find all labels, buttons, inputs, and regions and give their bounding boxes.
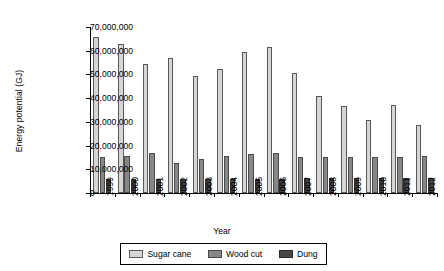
x-axis-tick-mark — [338, 193, 339, 197]
bar-sugar-cane-2011 — [391, 105, 396, 193]
bar-group — [412, 27, 437, 193]
y-axis-tick-label: 30,000,000 — [90, 118, 95, 127]
x-axis-tick-mark — [189, 193, 190, 197]
x-axis-tick-mark — [412, 193, 413, 197]
x-axis-tick-mark — [214, 193, 215, 197]
x-axis-title: Year — [0, 226, 444, 236]
x-axis-tick-label-1999: 1999 — [106, 177, 115, 196]
chart-figure: Energy potential (GJ) Year Sugar cane Wo… — [0, 0, 444, 271]
legend-label-dung: Dung — [297, 249, 318, 259]
bar-sugar-cane-2006 — [267, 47, 272, 193]
legend-label-sugar-cane: Sugar cane — [147, 249, 191, 259]
y-axis-tick-label: 70,000,000 — [90, 23, 95, 32]
bar-group — [140, 27, 165, 193]
x-axis-tick-mark — [363, 193, 364, 197]
x-axis-tick-mark — [264, 193, 265, 197]
x-axis-tick-label-2009: 2009 — [354, 177, 363, 196]
bar-group — [338, 27, 363, 193]
bar-group — [387, 27, 412, 193]
bar-sugar-cane-2003 — [193, 76, 198, 193]
bar-sugar-cane-2009 — [341, 106, 346, 193]
legend-label-wood-cut: Wood cut — [226, 249, 262, 259]
x-axis-tick-label-2010: 2010 — [379, 177, 388, 196]
bar-wood-cut-2005 — [248, 154, 253, 193]
x-axis-tick-label-2004: 2004 — [230, 177, 239, 196]
y-axis-tick-label: 40,000,000 — [90, 94, 95, 103]
x-axis-tick-mark — [164, 193, 165, 197]
legend-item-wood-cut: Wood cut — [208, 249, 262, 259]
y-axis-title: Energy potential (GJ) — [14, 36, 24, 186]
bar-sugar-cane-2002 — [168, 58, 173, 193]
legend-swatch-dung — [279, 250, 293, 258]
bar-sugar-cane-2004 — [217, 69, 222, 194]
bar-sugar-cane-2008 — [316, 96, 321, 193]
bar-sugar-cane-2012 — [416, 125, 421, 193]
x-axis-tick-mark — [288, 193, 289, 197]
y-axis-tick-mark — [86, 122, 90, 123]
x-axis-tick-mark — [437, 193, 438, 197]
bar-group — [288, 27, 313, 193]
x-axis-tick-label-2002: 2002 — [180, 177, 189, 196]
x-axis-tick-mark — [115, 193, 116, 197]
y-axis-tick-mark — [86, 51, 90, 52]
legend-swatch-sugar-cane — [129, 250, 143, 258]
y-axis-tick-label: 60,000,000 — [90, 46, 95, 55]
y-axis-tick-mark — [86, 146, 90, 147]
y-axis-tick-label: 10,000,000 — [90, 165, 95, 174]
y-axis-tick-mark — [86, 74, 90, 75]
x-axis-tick-label-2012: 2012 — [428, 177, 437, 196]
x-axis-tick-label-2000: 2000 — [131, 177, 140, 196]
legend-item-sugar-cane: Sugar cane — [129, 249, 191, 259]
legend-swatch-wood-cut — [208, 250, 222, 258]
plot-area — [90, 27, 437, 193]
bar-group — [363, 27, 388, 193]
bar-sugar-cane-2005 — [242, 52, 247, 193]
bar-group — [214, 27, 239, 193]
y-axis-tick-mark — [86, 98, 90, 99]
x-axis-tick-label-2008: 2008 — [329, 177, 338, 196]
y-axis-tick-mark — [86, 27, 90, 28]
x-axis-tick-mark — [239, 193, 240, 197]
bar-group — [313, 27, 338, 193]
x-axis-tick-label-2001: 2001 — [156, 177, 165, 196]
bar-group — [164, 27, 189, 193]
x-axis-tick-mark — [387, 193, 388, 197]
bar-sugar-cane-2007 — [292, 73, 297, 193]
bar-group — [239, 27, 264, 193]
y-axis-tick-label: 20,000,000 — [90, 141, 95, 150]
bar-group — [264, 27, 289, 193]
x-axis-tick-mark — [140, 193, 141, 197]
x-axis-tick-label-2006: 2006 — [279, 177, 288, 196]
x-axis-tick-label-2005: 2005 — [255, 177, 264, 196]
x-axis-tick-label-2003: 2003 — [205, 177, 214, 196]
x-axis-tick-label-2011: 2011 — [403, 178, 412, 196]
bar-sugar-cane-2001 — [143, 64, 148, 193]
y-axis-tick-label: 50,000,000 — [90, 70, 95, 79]
bar-sugar-cane-2010 — [366, 120, 371, 194]
bar-group — [189, 27, 214, 193]
x-axis-tick-mark — [313, 193, 314, 197]
bar-wood-cut-2001 — [149, 153, 154, 193]
legend-item-dung: Dung — [279, 249, 318, 259]
x-axis-tick-mark — [90, 193, 91, 197]
bar-wood-cut-2010 — [372, 157, 377, 193]
x-axis-tick-label-2007: 2007 — [304, 177, 313, 196]
chart-legend: Sugar cane Wood cut Dung — [120, 243, 327, 265]
y-axis-tick-mark — [86, 169, 90, 170]
